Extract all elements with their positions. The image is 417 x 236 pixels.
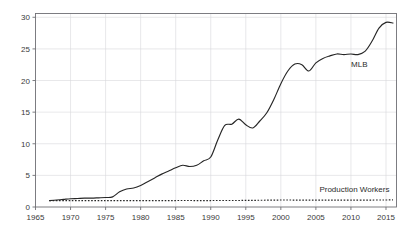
plot-frame [36, 14, 397, 208]
line-chart: 051015202530 196519701975198019851990199… [0, 0, 417, 236]
y-tick-label: 10 [21, 140, 30, 149]
x-tick-label: 1970 [62, 213, 80, 222]
y-tick-label: 25 [21, 45, 30, 54]
series-path-production-workers [50, 200, 393, 201]
series-label-mlb: MLB [351, 60, 367, 69]
x-tick-label: 1975 [97, 213, 115, 222]
x-tick-label: 2010 [342, 213, 360, 222]
y-tick-label: 20 [21, 77, 30, 86]
x-tick-label: 1985 [167, 213, 185, 222]
x-tick-label: 2005 [307, 213, 325, 222]
grid-lines [36, 14, 397, 208]
series-label-production-workers: Production Workers [319, 185, 389, 194]
x-tick-label: 1965 [27, 213, 45, 222]
x-tick-label: 1990 [202, 213, 220, 222]
y-tick-label: 30 [21, 13, 30, 22]
chart-figure: 051015202530 196519701975198019851990199… [0, 0, 417, 236]
y-axis-ticks: 051015202530 [21, 13, 35, 212]
x-tick-label: 1995 [237, 213, 255, 222]
x-tick-label: 2015 [377, 213, 395, 222]
series-labels: MLBProduction Workers [319, 60, 389, 195]
x-tick-label: 1980 [132, 213, 150, 222]
x-tick-label: 2000 [272, 213, 290, 222]
y-tick-label: 15 [21, 108, 30, 117]
y-tick-label: 5 [26, 171, 31, 180]
y-tick-label: 0 [26, 203, 31, 212]
x-axis-ticks: 1965197019751980198519901995200020052010… [27, 207, 396, 222]
